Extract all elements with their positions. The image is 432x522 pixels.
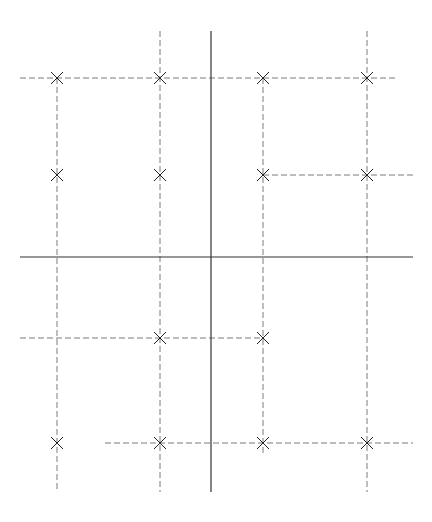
axes — [20, 31, 413, 492]
diagram-canvas — [0, 0, 432, 522]
construction-lines — [20, 31, 413, 492]
point-markers — [51, 72, 373, 449]
